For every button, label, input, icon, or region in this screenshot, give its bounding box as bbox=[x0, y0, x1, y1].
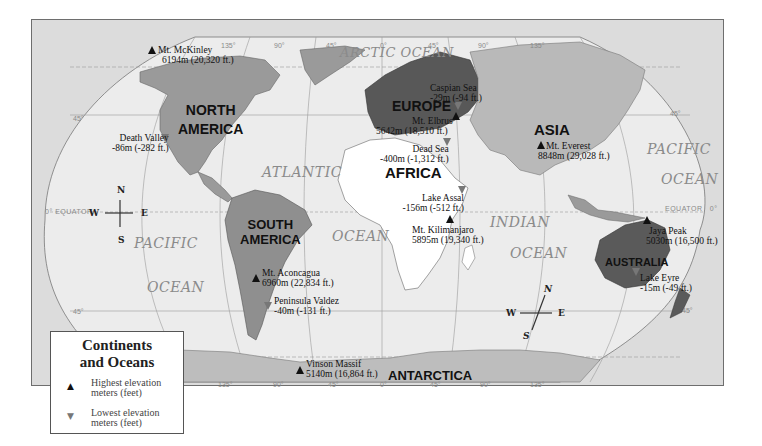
continent-label-africa: AFRICA bbox=[385, 165, 442, 180]
feature-vinson-massif: Vinson Massif 5140m (16,864 ft.) bbox=[306, 360, 378, 380]
ocean-label-atlantic: ATLANTIC bbox=[262, 165, 342, 179]
compass-east-n: N bbox=[544, 285, 552, 294]
ocean-label-indian: INDIAN bbox=[490, 215, 550, 229]
compass-west-n: N bbox=[117, 186, 125, 195]
feature-elevation: -29m (-94 ft.) bbox=[430, 94, 482, 104]
legend-item-text: meters (feet) bbox=[91, 388, 161, 398]
lon-label-bottom: 135° bbox=[530, 381, 544, 388]
lon-label-top: 45° bbox=[326, 42, 337, 49]
feature-elevation: 8848m (29,028 ft.) bbox=[538, 152, 610, 162]
lon-label-bottom: 45° bbox=[328, 381, 339, 388]
legend-title-line2: and Oceans bbox=[51, 354, 183, 370]
feature-death-valley: Death Valley -86m (-282 ft.) bbox=[112, 134, 169, 154]
feature-elevation: -400m (-1,312 ft.) bbox=[380, 155, 449, 165]
continent-label-line: SOUTH bbox=[240, 218, 301, 231]
continent-label-north-america: NORTH AMERICA bbox=[178, 103, 243, 136]
compass-west-e: E bbox=[141, 209, 148, 218]
lon-label-top: 0° bbox=[380, 42, 387, 49]
legend-item-text: meters (feet) bbox=[91, 418, 160, 428]
ocean-label-indian-2: OCEAN bbox=[510, 246, 567, 260]
feature-peninsula-valdez: Peninsula Valdez -40m (-131 ft.) bbox=[274, 297, 339, 317]
feature-jaya-peak: Jaya Peak 5030m (16,500 ft.) bbox=[646, 227, 718, 247]
lowest-elevation-icon: ▼ bbox=[67, 411, 74, 421]
feature-dead-sea: Dead Sea -400m (-1,312 ft.) bbox=[380, 145, 449, 165]
ocean-label-pacific-east: PACIFIC bbox=[647, 142, 711, 156]
ocean-label-atlantic-2: OCEAN bbox=[332, 229, 389, 243]
feature-elevation: -40m (-131 ft.) bbox=[274, 307, 339, 317]
lon-label-bottom: 45° bbox=[430, 381, 441, 388]
feature-mt-elbrus: Mt. Elbrus 5642m (18,510 ft.) bbox=[376, 117, 453, 137]
lon-label-bottom: 90° bbox=[273, 381, 284, 388]
continent-label-asia: ASIA bbox=[534, 122, 570, 137]
feature-elevation: -15m (-49 ft.) bbox=[640, 284, 692, 294]
compass-west-s: S bbox=[118, 236, 125, 245]
feature-elevation: 6960m (22,834 ft.) bbox=[262, 279, 334, 289]
feature-mt-kilimanjaro: Mt. Kilimanjaro 5895m (19,340 ft.) bbox=[412, 226, 484, 246]
equator-label-left: 0° EQUATOR bbox=[45, 208, 93, 215]
legend-item-highest: Highest elevation meters (feet) bbox=[91, 378, 161, 398]
continent-label-line: AMERICA bbox=[240, 233, 301, 246]
degree-label: 0° bbox=[45, 208, 53, 215]
equator-label-right: EQUATOR 0° bbox=[665, 205, 718, 212]
legend: Continents and Oceans ▲ Highest elevatio… bbox=[50, 331, 184, 434]
highest-elevation-marker-mt-mckinley bbox=[148, 46, 156, 54]
feature-lake-eyre: Lake Eyre -15m (-49 ft.) bbox=[640, 274, 692, 294]
feature-elevation: 5642m (18,510 ft.) bbox=[376, 127, 453, 137]
feature-elevation: 5895m (19,340 ft.) bbox=[412, 236, 484, 246]
continent-label-south-america: SOUTH AMERICA bbox=[240, 218, 301, 246]
lon-label-bottom: 0° bbox=[380, 381, 387, 388]
lat-45n-label-right: 45° bbox=[670, 110, 681, 117]
continent-label-line: NORTH bbox=[178, 103, 243, 117]
feature-mt-everest: Mt. Everest 8848m (29,028 ft.) bbox=[546, 142, 610, 162]
legend-item-lowest: Lowest elevation meters (feet) bbox=[91, 408, 160, 428]
continent-label-australia: AUSTRALIA bbox=[605, 257, 669, 268]
lat-45n-label: 45° bbox=[73, 115, 84, 122]
lat-45s-label-right: 45° bbox=[682, 307, 693, 314]
ocean-label-pacific-west-2: OCEAN bbox=[147, 280, 204, 294]
lon-label-top: 135° bbox=[530, 42, 544, 49]
feature-elevation: 5140m (16,864 ft.) bbox=[306, 370, 378, 380]
equator-text: EQUATOR bbox=[55, 208, 92, 215]
lat-45s-label: 45° bbox=[73, 308, 84, 315]
feature-elevation: -86m (-282 ft.) bbox=[112, 144, 169, 154]
compass-east-e: E bbox=[558, 309, 565, 318]
feature-elevation: -156m (-512 ft.) bbox=[400, 204, 464, 214]
feature-lake-assal: Lake Assal -156m (-512 ft.) bbox=[400, 194, 464, 214]
equator-text: EQUATOR bbox=[665, 205, 702, 212]
degree-label: 0° bbox=[710, 205, 718, 212]
compass-west-w: W bbox=[89, 209, 99, 218]
compass-east-s: S bbox=[523, 332, 530, 341]
lon-label-top: 45° bbox=[428, 42, 439, 49]
feature-elevation: 6194m (20,320 ft.) bbox=[158, 56, 234, 66]
ocean-label-pacific-west: PACIFIC bbox=[134, 236, 198, 250]
lon-label-bottom: 135° bbox=[218, 381, 232, 388]
legend-title-line1: Continents bbox=[51, 337, 183, 353]
lon-label-top: 90° bbox=[274, 42, 285, 49]
feature-mt-aconcagua: Mt. Aconcagua 6960m (22,834 ft.) bbox=[262, 269, 334, 289]
compass-east-w: W bbox=[506, 309, 516, 318]
continent-label-line: AMERICA bbox=[178, 122, 243, 136]
feature-caspian-sea: Caspian Sea -29m (-94 ft.) bbox=[430, 84, 482, 104]
lon-label-top: 90° bbox=[478, 42, 489, 49]
lon-label-top: 135° bbox=[221, 42, 235, 49]
highest-elevation-icon: ▲ bbox=[67, 381, 74, 391]
lon-label-bottom: 90° bbox=[480, 381, 491, 388]
ocean-label-pacific-east-2: OCEAN bbox=[661, 172, 718, 186]
feature-elevation: 5030m (16,500 ft.) bbox=[646, 237, 718, 247]
